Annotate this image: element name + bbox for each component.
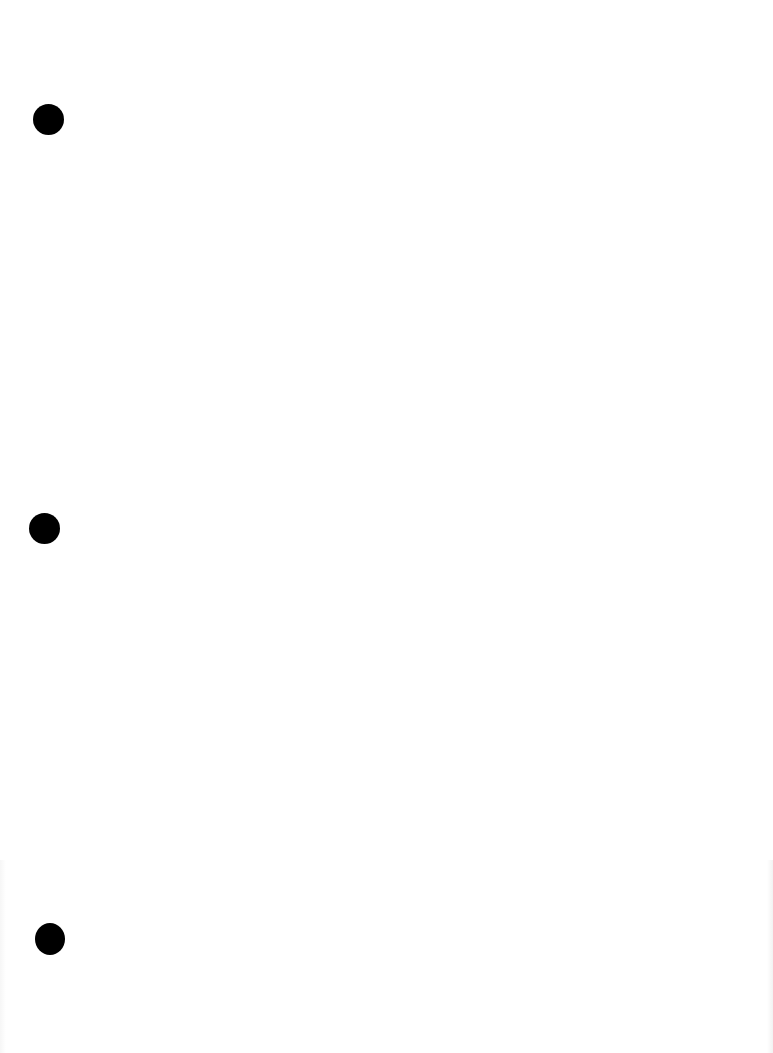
blank-page: [0, 0, 773, 1053]
page-edge-shadow-right: [767, 860, 773, 1053]
punch-hole-top: [33, 104, 64, 135]
page-edge-shadow-left: [0, 860, 6, 1053]
punch-hole-middle: [29, 513, 60, 544]
punch-hole-bottom: [35, 923, 65, 955]
